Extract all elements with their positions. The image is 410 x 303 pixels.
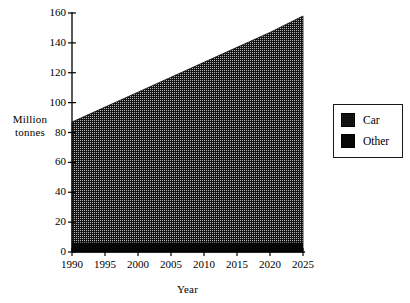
area-chart: Million tonnes 020406080100120140160 199… bbox=[0, 0, 410, 303]
legend-label: Car bbox=[363, 114, 380, 126]
legend-item-other[interactable]: Other bbox=[341, 134, 389, 148]
legend-item-car[interactable]: Car bbox=[341, 113, 380, 127]
legend-swatch-other-icon bbox=[341, 134, 355, 148]
area-series-other bbox=[72, 243, 303, 252]
series-layer bbox=[72, 16, 303, 252]
legend: CarOther bbox=[333, 104, 403, 158]
legend-label: Other bbox=[363, 135, 389, 147]
legend-swatch-car-icon bbox=[341, 113, 355, 127]
area-series-car bbox=[72, 16, 303, 243]
